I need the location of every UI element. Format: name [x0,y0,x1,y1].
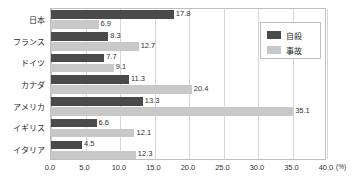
bar-value-label: 7.7 [106,53,116,62]
bar-事故-フランス [51,42,139,51]
bar-value-label: 6.9 [101,20,111,29]
bar-value-label: 12.3 [138,150,153,159]
category-label-カナダ: カナダ [0,79,45,90]
bar-value-label: 9.1 [116,63,126,72]
legend-swatch-icon [267,46,281,54]
bar-自殺-ドイツ [51,54,104,63]
bar-value-label: 13.3 [145,97,160,106]
x-tick-0.0: 0.0 [45,163,55,172]
bar-事故-アメリカ [51,107,293,116]
bar-value-label: 35.1 [295,107,310,116]
legend-swatch-icon [267,31,281,39]
bar-value-label: 12.7 [141,42,156,51]
bar-value-label: 4.5 [84,140,94,149]
bar-自殺-カナダ [51,75,129,84]
bar-自殺-イギリス [51,119,97,128]
x-tick-35.0: 35.0 [284,163,299,172]
bar-自殺-日本 [51,10,174,19]
category-label-イギリス: イギリス [0,122,45,133]
x-tick-15.0: 15.0 [146,163,161,172]
legend-entry-事故: 事故 [267,45,302,55]
category-label-イタリア: イタリア [0,144,45,155]
x-tick-5.0: 5.0 [79,163,89,172]
category-label-日本: 日本 [0,14,45,25]
bar-事故-カナダ [51,85,192,94]
x-tick-25.0: 25.0 [215,163,230,172]
bar-row: 13.335.1 [51,96,325,118]
plot-area: 17.86.98.312.77.79.111.320.413.335.16.61… [50,8,326,160]
legend-label: 事故 [286,45,302,56]
bar-事故-日本 [51,20,99,29]
bar-row: 6.612.1 [51,118,325,140]
gridline-40.0 [327,9,328,159]
x-tick-40.0: 40.0 [319,163,334,172]
category-label-ドイツ: ドイツ [0,57,45,68]
bar-value-label: 11.3 [131,75,145,84]
bar-value-label: 20.4 [194,85,209,94]
bar-value-label: 8.3 [110,32,120,41]
x-tick-20.0: 20.0 [181,163,196,172]
bar-自殺-アメリカ [51,97,143,106]
bar-value-label: 12.1 [136,129,151,138]
bar-row: 11.320.4 [51,74,325,96]
x-tick-30.0: 30.0 [250,163,265,172]
bar-自殺-イタリア [51,141,82,150]
grouped-bar-chart: 日本フランスドイツカナダアメリカイギリスイタリア 17.86.98.312.77… [0,0,354,185]
legend-label: 自殺 [286,30,302,41]
bar-自殺-フランス [51,32,108,41]
category-label-フランス: フランス [0,36,45,47]
x-tick-10.0: 10.0 [112,163,127,172]
x-axis-unit-label: (%) [336,163,346,170]
bar-事故-イタリア [51,151,136,160]
legend-entry-自殺: 自殺 [267,30,302,40]
bar-事故-イギリス [51,129,134,138]
legend: 自殺事故 [260,22,321,59]
bar-row: 4.512.3 [51,139,325,161]
category-label-アメリカ: アメリカ [0,101,45,112]
bar-value-label: 17.8 [176,10,191,19]
bar-value-label: 6.6 [99,119,109,128]
bar-事故-ドイツ [51,64,114,73]
